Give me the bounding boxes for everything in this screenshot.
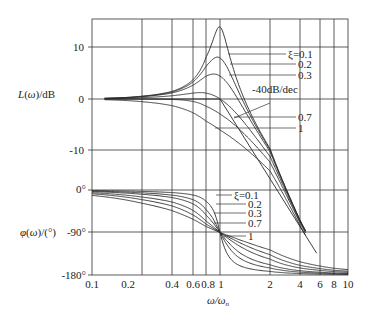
magnitude-label: 0.3	[298, 69, 312, 81]
xtick-label: 8	[331, 278, 337, 290]
ytick-phase-neg180: -180°	[61, 269, 86, 281]
xtick-label: 10	[343, 278, 355, 290]
xtick-label: 0.6	[186, 278, 200, 290]
xtick-label: 0.2	[121, 278, 135, 290]
x-tick-labels: 0.10.20.40.60.81246810	[85, 278, 354, 290]
xtick-label: 6	[317, 278, 323, 290]
magnitude-curve	[105, 99, 306, 233]
x-axis-title: ω/ωn	[207, 294, 230, 308]
bode-plot: 10 0 -10 0° -90° -180° L(ω)/dB φ(ω)/(°) …	[0, 0, 373, 325]
xtick-label: 0.1	[85, 278, 99, 290]
xtick-label: 4	[297, 278, 303, 290]
ytick-phase-neg90: -90°	[67, 226, 86, 238]
xtick-label: 0.4	[165, 278, 179, 290]
phase-axis-title: φ(ω)/(°)	[20, 226, 56, 239]
asymptote-line	[105, 99, 317, 253]
magnitude-label: -40dB/dec	[252, 83, 298, 95]
phase-label: 0.7	[248, 217, 262, 229]
magnitude-curve-labels: ξ=0.10.20.3-40dB/dec0.71	[252, 48, 313, 134]
magnitude-label: 1	[298, 122, 304, 134]
phase-curve-labels: ξ=0.10.20.30.71	[234, 189, 262, 242]
xtick-label: 1	[218, 278, 224, 290]
ytick-phase-0: 0°	[76, 183, 86, 195]
ytick-mag-neg10: -10	[69, 144, 84, 156]
xtick-label: 0.8	[201, 278, 215, 290]
phase-label: 1	[248, 230, 254, 242]
ytick-mag-10: 10	[73, 41, 85, 53]
ytick-mag-0: 0	[79, 93, 85, 105]
mag-axis-title: L(ω)/dB	[17, 88, 55, 101]
xtick-label: 2	[267, 278, 273, 290]
